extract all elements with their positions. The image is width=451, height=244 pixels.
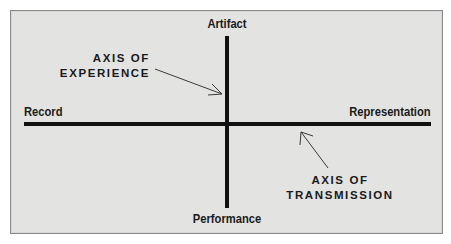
arrows-layer xyxy=(0,0,451,244)
arrow-transmission-icon xyxy=(300,132,328,168)
arrow-experience-icon xyxy=(155,69,222,95)
